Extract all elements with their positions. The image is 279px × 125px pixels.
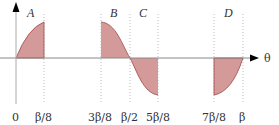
x-axis-arrow-icon: [250, 55, 259, 62]
tick-label-5b8: 5β/8: [146, 111, 170, 124]
tick-label-3b8: 3β/8: [88, 111, 112, 124]
y-axis-arrow-icon: [13, 2, 20, 12]
region-label-c: C: [139, 6, 148, 20]
region-a-fill: [16, 22, 44, 58]
tick-label-7b8: 7β/8: [202, 111, 226, 124]
region-label-a: A: [26, 6, 35, 20]
tick-label-b2: β/2: [121, 111, 138, 124]
region-d-fill: [214, 58, 243, 95]
region-label-d: D: [223, 6, 233, 20]
tick-label-b8: β/8: [35, 111, 52, 124]
axis-label-theta: θ: [264, 52, 271, 65]
region-label-b: B: [110, 6, 118, 20]
tick-label-b: β: [239, 111, 245, 124]
tick-label-0: 0: [12, 111, 19, 124]
diagram-canvas: θ A B C D 0 β/8 3β/8 β/2 5β/8 7β/8 β: [0, 0, 279, 125]
sine-segments-diagram: θ A B C D 0 β/8 3β/8 β/2 5β/8 7β/8 β: [0, 0, 279, 125]
